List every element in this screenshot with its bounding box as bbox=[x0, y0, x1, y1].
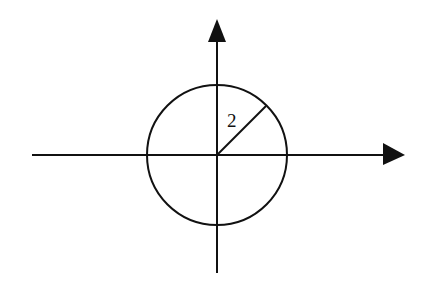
y-axis-arrow-icon bbox=[208, 19, 226, 42]
radius-segment bbox=[217, 106, 266, 155]
circle-diagram: 2 bbox=[0, 0, 421, 283]
x-axis-arrow-icon bbox=[383, 143, 405, 165]
y-axis bbox=[208, 19, 226, 273]
radius-label: 2 bbox=[227, 110, 237, 131]
